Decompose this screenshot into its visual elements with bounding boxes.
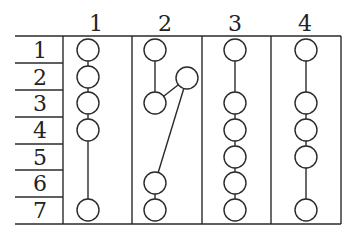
graph-node [295,119,317,141]
column-header-4: 4 [298,11,312,36]
graph-node [295,199,317,221]
graph-node [77,119,99,141]
graph-node [144,199,166,221]
column-graph-2 [144,39,198,221]
graph-node [144,39,166,61]
column-header-2: 2 [158,11,172,36]
column-graph-3 [224,39,246,221]
graph-node [224,39,246,61]
graph-node [295,39,317,61]
graph-node [224,172,246,194]
row-label-3: 3 [33,91,47,116]
row-label-1: 1 [33,38,47,63]
row-label-7: 7 [33,198,47,223]
row-labels: 1 2 3 4 5 6 7 [33,38,47,223]
grid-lines [15,36,341,224]
graph-node [77,199,99,221]
graph-node [295,146,317,168]
row-label-6: 6 [33,171,47,196]
graph-node [176,67,198,89]
row-label-2: 2 [33,65,47,90]
column-header-3: 3 [228,11,242,36]
graph-node [224,119,246,141]
graph-node [295,92,317,114]
graph-node [224,92,246,114]
graph-node [144,92,166,114]
graph-node [77,39,99,61]
graph-node [224,199,246,221]
column-header-1: 1 [89,11,103,36]
graph-node [77,92,99,114]
column-graph-1 [77,39,99,221]
graph-node [77,66,99,88]
graph-node [224,146,246,168]
grid-diagram: 1 2 3 4 1 2 3 4 5 6 7 [0,0,360,241]
column-graph-4 [295,39,317,221]
graph-node [144,172,166,194]
column-headers: 1 2 3 4 [89,11,312,36]
row-label-5: 5 [33,145,47,170]
row-label-4: 4 [33,118,47,143]
column-graphs [77,39,317,221]
